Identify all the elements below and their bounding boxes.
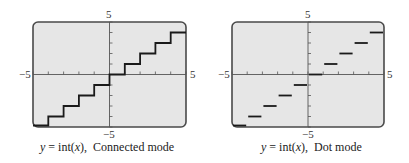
caption-eq: = int( (266, 140, 295, 154)
dot-mode-caption: y = int(x), Dot mode (261, 141, 362, 154)
y-min-label: −5 (103, 129, 115, 140)
caption-close: ), (80, 140, 87, 154)
y-max-label: 5 (305, 9, 311, 20)
caption-mode: Dot mode (314, 140, 362, 154)
connected-mode-caption: y = int(x), Connected mode (40, 141, 174, 154)
x-min-label: −5 (218, 69, 230, 80)
x-max-label: 5 (190, 69, 196, 80)
x-min-label: −5 (19, 69, 31, 80)
caption-eq: = int( (45, 140, 74, 154)
caption-close: ), (301, 140, 308, 154)
connected-mode-panel: 5 −5 −5 5 y = int(x), Connected mode (0, 0, 205, 163)
y-min-label: −5 (302, 129, 314, 140)
dot-mode-panel: 5 −5 −5 5 y = int(x), Dot mode (204, 0, 409, 163)
x-max-label: 5 (387, 69, 393, 80)
y-max-label: 5 (106, 9, 112, 20)
caption-mode: Connected mode (93, 140, 174, 154)
